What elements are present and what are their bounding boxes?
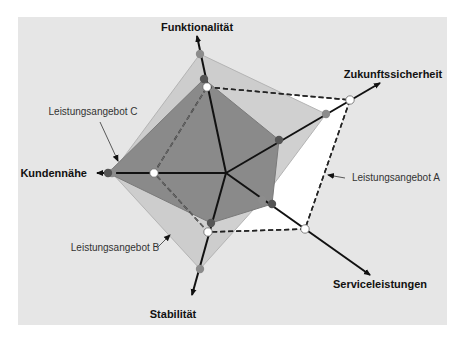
data-point-leistungsangebot-b — [196, 50, 204, 58]
data-point-leistungsangebot-a — [301, 225, 309, 233]
axis-label-zukunftssicherheit: Zukunftssicherheit — [344, 68, 443, 80]
data-point-leistungsangebot-c — [200, 75, 208, 83]
axis-label-funktionalitaet: Funktionalität — [161, 21, 233, 33]
data-point-leistungsangebot-c — [268, 200, 276, 208]
callout-label: Leistungsangebot B — [71, 242, 160, 253]
data-point-leistungsangebot-a — [346, 96, 354, 104]
data-point-leistungsangebot-c — [275, 136, 283, 144]
data-point-leistungsangebot-b — [322, 110, 330, 118]
axis-label-serviceleistungen: Serviceleistungen — [333, 278, 427, 290]
axis-label-stabilitaet: Stabilität — [150, 308, 197, 320]
data-point-leistungsangebot-c — [207, 219, 215, 227]
data-point-leistungsangebot-a — [150, 169, 158, 177]
radar-chart: FunktionalitätZukunftssicherheitServicel… — [0, 0, 463, 342]
data-point-leistungsangebot-c — [104, 169, 112, 177]
data-point-leistungsangebot-b — [258, 196, 266, 204]
data-point-leistungsangebot-b — [196, 265, 204, 273]
data-point-leistungsangebot-a — [204, 228, 212, 236]
callout-label: Leistungsangebot A — [352, 172, 440, 183]
callout-label: Leistungsangebot C — [49, 106, 138, 117]
axis-label-kundennaehe: Kundennähe — [20, 167, 87, 179]
data-point-leistungsangebot-a — [203, 83, 211, 91]
